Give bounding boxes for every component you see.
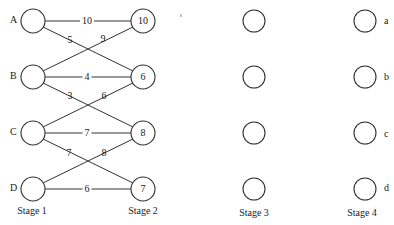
edge-weight-D-row3: 8: [100, 148, 109, 158]
edge-weight-A-row2: 5: [66, 35, 75, 45]
node-stage3-row2: [243, 66, 265, 88]
node-label-D: D: [10, 183, 17, 193]
stage-4-caption: Stage 4: [347, 208, 377, 218]
edge-weight-B-row3: 3: [66, 91, 75, 101]
edge-weight-B-row2: 4: [83, 72, 92, 82]
edge-weight-C-row3: 7: [83, 128, 92, 138]
edge-weight-C-row2: 6: [100, 91, 109, 101]
node-D: [21, 177, 45, 201]
stage2-value-row1: 10: [138, 16, 148, 26]
node-stage4-a: [354, 10, 376, 32]
node-stage3-row1: [243, 10, 265, 32]
stage2-value-row3: 8: [141, 128, 146, 138]
node-stage3-row4: [243, 178, 265, 200]
stage4-label-b: b: [384, 72, 389, 82]
stage4-label-c: c: [384, 129, 388, 139]
edge-weight-B-row1: 9: [99, 34, 108, 44]
node-B: [21, 65, 45, 89]
node-label-A: A: [10, 15, 17, 25]
node-label-C: C: [10, 127, 17, 137]
node-label-B: B: [10, 71, 17, 81]
stage2-value-row2: 6: [141, 72, 146, 82]
edge-weight-D-row4: 6: [83, 184, 92, 194]
network-diagram-canvas: [0, 0, 394, 225]
stage-2-caption: Stage 2: [128, 206, 158, 216]
stage4-label-d: d: [384, 183, 389, 193]
stage-1-caption: Stage 1: [17, 206, 47, 216]
node-stage4-b: [354, 66, 376, 88]
node-A: [21, 9, 45, 33]
stage4-label-a: a: [384, 16, 388, 26]
node-stage3-row3: [243, 122, 265, 144]
edge-weight-A-row1: 10: [80, 16, 94, 26]
node-stage4-c: [354, 122, 376, 144]
edge-weight-C-row4: 7: [65, 148, 74, 158]
stage2-value-row4: 7: [141, 184, 146, 194]
node-C: [21, 121, 45, 145]
node-stage4-d: [354, 178, 376, 200]
stage-3-caption: Stage 3: [239, 208, 269, 218]
